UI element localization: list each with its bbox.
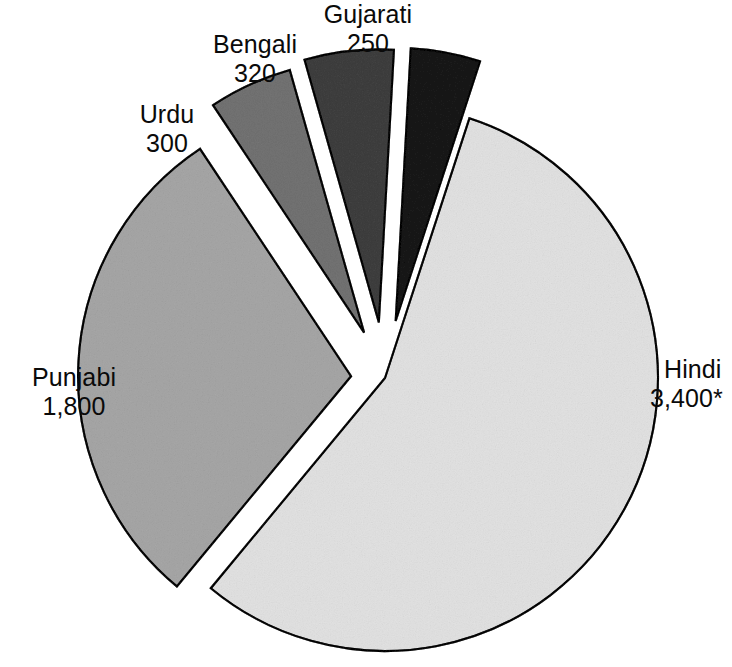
- pie-chart: Gujarati 250 Bengali 320 Urdu 300 Punjab…: [0, 0, 732, 667]
- slice-label-gujarati-name: Gujarati: [278, 0, 458, 29]
- slice-label-bengali-name: Bengali: [170, 30, 340, 59]
- slice-label-bengali-value: 320: [170, 59, 340, 88]
- slice-label-urdu: Urdu 300: [92, 100, 242, 158]
- slice-label-bengali: Bengali 320: [170, 30, 340, 88]
- slice-label-hindi-name: Hindi: [650, 355, 732, 384]
- slice-label-urdu-value: 300: [92, 129, 242, 158]
- slice-label-hindi-value: 3,400*: [650, 384, 732, 413]
- slice-label-punjabi-value: 1,800: [0, 392, 154, 421]
- slice-label-urdu-name: Urdu: [92, 100, 242, 129]
- slice-label-punjabi: Punjabi 1,800: [0, 363, 154, 421]
- slice-label-hindi: Hindi 3,400*: [650, 355, 732, 413]
- slice-label-punjabi-name: Punjabi: [0, 363, 154, 392]
